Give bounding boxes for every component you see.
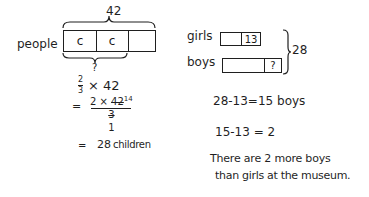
answer-sentence-line-2: than girls at the museum. [215,170,350,181]
equation-difference: 15-13 = 2 [215,126,275,138]
result-28: 28 [97,139,111,150]
simplify-fraction: 2 × 4214 3 1 [90,96,133,133]
fraction-two-thirds: 2 3 [78,76,83,95]
answer-sentence-line-1: There are 2 more boys [210,153,331,164]
girls-value-cell: 13 [241,33,261,45]
tape-cell-3 [128,31,156,51]
crossed-42: 42 [111,96,124,107]
girls-tape: 13 [220,32,261,46]
tape-cell-children-1: c [64,31,96,51]
row-label-girls: girls [187,30,212,42]
equals-sign: = [78,141,86,151]
equation-boys: 28-13=15 boys [213,95,305,107]
equals-sign: = [72,101,81,112]
boys-unknown: ? [270,60,275,71]
row-label-people: people [17,38,58,50]
tape-cell-children-2: c [96,31,128,51]
row-label-boys: boys [187,56,215,68]
right-brace [282,29,292,75]
boys-tape: ? [222,58,282,73]
total-label-28: 28 [292,44,307,56]
girls-value: 13 [245,34,258,45]
numerator-two-times: 2 × [90,96,111,107]
fraction-numerator: 2 [78,76,83,84]
unknown-children-label: ? [92,63,97,73]
reduced-14: 14 [124,95,133,103]
top-brace [62,15,157,29]
cell-label: c [77,34,84,48]
fraction-denominator: 3 [78,87,83,95]
cell-label: c [109,34,116,48]
boys-unknown-cell: ? [264,59,282,72]
people-tape: c c [63,30,156,52]
simplify-numerator: 2 × 4214 [90,96,133,107]
result-unit-children: children [113,140,151,150]
reduced-1: 1 [108,123,114,133]
crossed-3: 3 [108,110,114,120]
multiply-42: × 42 [88,79,120,92]
